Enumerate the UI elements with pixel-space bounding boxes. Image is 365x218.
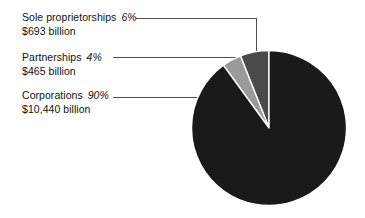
callout-sole-proprietorships-percent: 6% bbox=[121, 11, 136, 23]
callout-label-partnerships: Partnerships4% $465 billion bbox=[22, 51, 102, 78]
callout-partnerships-percent: 4% bbox=[87, 51, 102, 63]
callout-partnerships-amount: $465 billion bbox=[22, 65, 102, 79]
callout-sole-proprietorships-amount: $693 billion bbox=[22, 25, 137, 39]
pie-slice-corporations bbox=[192, 51, 347, 206]
pie-chart-figure: Sole proprietorships6% $693 billion Part… bbox=[0, 0, 365, 218]
callout-sole-proprietorships-line1: Sole proprietorships6% bbox=[22, 11, 137, 25]
callout-label-corporations: Corporations90% $10,440 billion bbox=[22, 89, 109, 116]
pie-chart bbox=[191, 50, 347, 206]
pie-chart-svg bbox=[191, 50, 347, 206]
callout-corporations-line1: Corporations90% bbox=[22, 89, 109, 103]
callout-corporations-amount: $10,440 billion bbox=[22, 103, 109, 117]
callout-corporations-name: Corporations bbox=[22, 89, 83, 101]
callout-sole-proprietorships-name: Sole proprietorships bbox=[22, 11, 116, 23]
callout-partnerships-name: Partnerships bbox=[22, 51, 82, 63]
callout-partnerships-line1: Partnerships4% bbox=[22, 51, 102, 65]
leader-line-sole-proprietorships-horizontal bbox=[136, 18, 256, 19]
callout-corporations-percent: 90% bbox=[88, 89, 109, 101]
callout-label-sole-proprietorships: Sole proprietorships6% $693 billion bbox=[22, 11, 137, 38]
